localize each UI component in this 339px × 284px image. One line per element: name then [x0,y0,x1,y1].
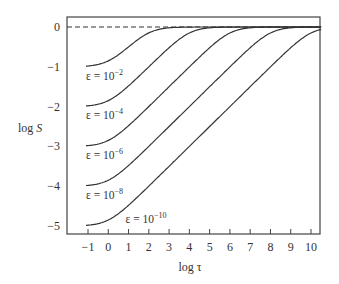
y-axis-title: log S [18,121,42,135]
x-tick-label: 1 [126,240,132,254]
y-tick-label: −3 [47,139,60,153]
x-tick-label: 3 [166,240,172,254]
curve-label-eps-1e-10: ε = 10−10 [126,211,167,225]
x-tick-label: 4 [186,240,192,254]
plot-frame [67,17,320,234]
x-axis-title: log τ [178,260,201,274]
curve-eps-1e-8 [86,27,321,186]
x-tick-label: −1 [82,240,95,254]
x-tick-label: 2 [146,240,152,254]
curve-eps-1e-6 [86,27,321,146]
y-tick-label: −5 [47,219,60,233]
curve-labels: ε = 10−2ε = 10−4ε = 10−6ε = 10−8ε = 10−1… [86,68,167,225]
y-tick-label: −2 [47,100,60,114]
curve-label-eps-1e-8: ε = 10−8 [86,187,123,201]
x-tick-label: 5 [207,240,213,254]
y-tick-label: −1 [47,60,60,74]
x-tick-label: 0 [105,240,111,254]
y-axis-title-prefix: log [18,121,36,135]
y-tick-label: −4 [47,179,60,193]
x-axis-ticks: −1012345678910 [82,229,317,254]
x-tick-label: 8 [267,240,273,254]
x-tick-label: 7 [247,240,253,254]
y-tick-label: 0 [54,20,60,34]
curve-label-eps-1e-6: ε = 10−6 [86,147,123,161]
plot-border [67,17,320,234]
curve-eps-1e-4 [86,27,321,106]
curve-label-eps-1e-2: ε = 10−2 [86,68,123,82]
curve-label-eps-1e-4: ε = 10−4 [86,107,123,121]
chart-figure: −1012345678910 0−1−2−3−4−5 ε = 10−2ε = 1… [0,0,339,284]
y-axis-ticks: 0−1−2−3−4−5 [47,20,60,233]
y-axis-title-var: S [36,121,42,135]
curve-eps-1e-2 [86,27,321,66]
x-tick-label: 9 [288,240,294,254]
x-tick-label: 6 [227,240,233,254]
x-tick-label: 10 [305,240,317,254]
